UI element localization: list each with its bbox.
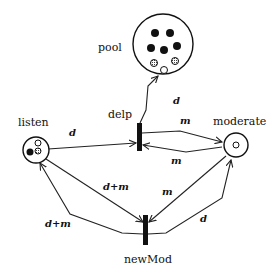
arc-label-moderate-delp: m bbox=[171, 155, 182, 166]
arc-label-delp-moderate: m bbox=[180, 115, 191, 126]
arc-moderate-newMod bbox=[149, 156, 226, 222]
petri-net-diagram: pool listen moderate delp newMod d d m m… bbox=[0, 0, 272, 272]
arc-label-moderate-newMod: m bbox=[162, 186, 173, 197]
arc-delp-pool bbox=[140, 76, 158, 123]
label-pool: pool bbox=[98, 41, 122, 54]
place-listen bbox=[23, 137, 49, 163]
transition-newMod bbox=[143, 215, 148, 245]
arc-moderate-delp bbox=[143, 145, 222, 152]
arc-label-listen-newMod: d+m bbox=[103, 181, 129, 192]
label-delp: delp bbox=[108, 108, 132, 121]
label-moderate: moderate bbox=[213, 115, 266, 128]
arc-label-newMod-moderate: d bbox=[200, 213, 207, 224]
place-pool bbox=[133, 14, 193, 74]
arc-newMod-moderate bbox=[148, 160, 231, 234]
label-listen: listen bbox=[18, 116, 49, 129]
arc-label-newMod-listen: d+m bbox=[45, 218, 71, 229]
arc-delp-moderate bbox=[142, 131, 222, 142]
place-moderate bbox=[224, 133, 248, 157]
transition-delp bbox=[137, 123, 142, 151]
label-newMod: newMod bbox=[124, 253, 172, 266]
arc-label-listen-delp: d bbox=[69, 127, 76, 138]
arc-label-delp-pool: d bbox=[173, 95, 180, 106]
arc-listen-delp bbox=[48, 143, 136, 149]
